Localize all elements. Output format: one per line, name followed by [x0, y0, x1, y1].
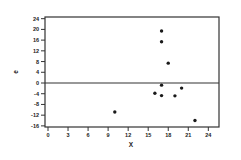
y-tick-label: -4 — [34, 91, 40, 97]
data-point — [167, 61, 170, 64]
x-axis: 03691215182124 — [46, 127, 212, 138]
y-tick-label: 8 — [36, 59, 39, 65]
y-axis-label: e — [12, 70, 19, 74]
plot-border — [45, 17, 219, 127]
x-tick-label: 0 — [46, 132, 49, 138]
x-tick-label: 21 — [185, 132, 191, 138]
plot-frame — [45, 17, 219, 127]
data-point — [180, 86, 183, 89]
x-tick-label: 6 — [87, 132, 90, 138]
data-points — [113, 29, 197, 122]
y-tick-label: 0 — [36, 80, 39, 86]
x-tick-label: 9 — [107, 132, 110, 138]
data-point — [160, 40, 163, 43]
data-point — [153, 91, 156, 94]
data-point — [160, 94, 163, 97]
y-axis: 24201612840-4-8-12-16 — [31, 16, 45, 129]
data-point — [160, 83, 163, 86]
y-tick-label: -8 — [34, 101, 39, 107]
y-tick-label: -12 — [31, 112, 39, 118]
data-point — [173, 94, 176, 97]
y-tick-label: 24 — [33, 16, 40, 22]
x-tick-label: 12 — [125, 132, 131, 138]
y-tick-label: 4 — [36, 69, 40, 75]
x-tick-label: 18 — [165, 132, 171, 138]
data-point — [160, 29, 163, 32]
y-tick-label: 12 — [33, 48, 39, 54]
x-tick-label: 15 — [145, 132, 151, 138]
data-point — [193, 119, 196, 122]
x-tick-label: 24 — [205, 132, 212, 138]
scatter-chart: 24201612840-4-8-12-16 03691215182124 X e — [0, 0, 241, 160]
y-tick-label: 16 — [33, 37, 39, 43]
y-tick-label: 20 — [33, 26, 39, 32]
y-tick-label: -16 — [31, 123, 39, 129]
x-tick-label: 3 — [67, 132, 70, 138]
data-point — [113, 110, 116, 113]
x-axis-label: X — [129, 141, 134, 148]
